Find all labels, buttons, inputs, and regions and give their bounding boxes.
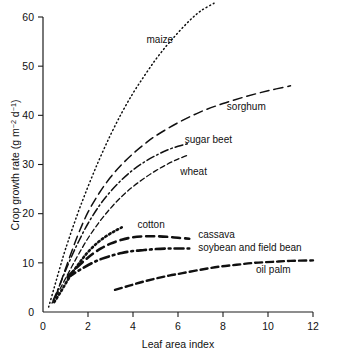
svg-text:Crop growth rate (g m−2 d−1): Crop growth rate (g m−2 d−1) [9,100,22,231]
x-tick-label: 0 [40,320,46,332]
series-label-soybean-and-field-bean: soybean and field bean [198,242,301,253]
y-axis-title-prefix: Crop growth rate (g m [9,128,21,230]
series-curve-cassava [68,236,190,276]
y-axis-ticks [38,17,43,263]
data-series-curves [49,3,313,307]
y-tick-label: 0 [28,306,34,318]
x-tick-label: 12 [307,320,319,332]
x-axis-ticks [88,312,313,317]
x-axis-tick-labels: 024681012 [40,320,319,332]
crop-growth-rate-line-chart: 0102030405060 024681012 maizesorghumsuga… [0,0,344,354]
y-axis-title-exponent-day: −1 [9,103,18,111]
series-label-oil-palm: oil palm [256,264,290,275]
y-tick-label: 20 [22,207,34,219]
y-axis-title-exponent-area: −2 [9,120,18,128]
series-label-cotton: cotton [138,219,165,230]
y-axis-title-mid: d [9,111,21,120]
y-tick-label: 50 [22,60,34,72]
series-inline-labels: maizesorghumsugar beetwheatcottoncassava… [138,34,302,276]
x-tick-label: 10 [262,320,274,332]
y-axis-tick-labels: 0102030405060 [22,11,34,318]
series-label-sorghum: sorghum [227,101,266,112]
series-label-maize: maize [147,34,174,45]
y-tick-label: 30 [22,158,34,170]
x-axis-title: Leaf area index [142,338,215,350]
y-tick-label: 10 [22,257,34,269]
x-tick-label: 2 [85,320,91,332]
y-tick-label: 60 [22,11,34,23]
series-label-wheat: wheat [179,166,207,177]
y-axis-title-suffix: ) [9,100,21,104]
y-axis-title: Crop growth rate (g m−2 d−1) [9,100,22,231]
x-tick-label: 8 [220,320,226,332]
x-tick-label: 6 [175,320,181,332]
x-tick-label: 4 [130,320,136,332]
series-label-cassava: cassava [198,229,235,240]
series-label-sugar-beet: sugar beet [185,134,232,145]
chart-figure: 0102030405060 024681012 maizesorghumsuga… [0,0,344,354]
y-tick-label: 40 [22,109,34,121]
